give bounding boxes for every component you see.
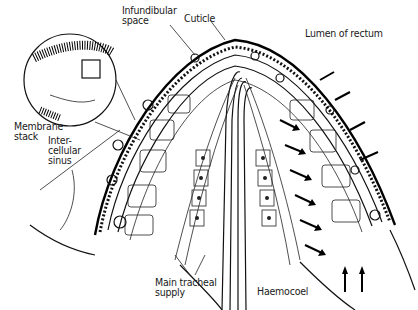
main-tracheal-supply-label: Main tracheal supply: [155, 277, 217, 297]
central-trachea: [175, 72, 300, 310]
mitochondria-circles: [107, 52, 380, 228]
lumen-of-rectum-label: Lumen of rectum: [305, 28, 383, 38]
haemocoel-label: Haemocoel: [257, 286, 308, 296]
intercellular-sinus-label: Inter- cellular sinus: [48, 135, 81, 165]
flow-arrows: [280, 72, 378, 292]
infundibular-space-label: Infundibular space: [122, 5, 177, 25]
cuticle-label: Cuticle: [184, 13, 215, 23]
